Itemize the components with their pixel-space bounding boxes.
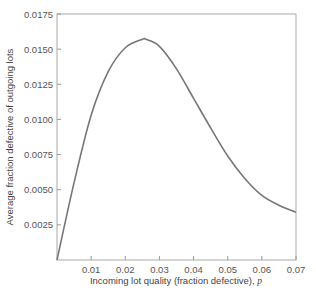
x-tick-label: 0.06 xyxy=(253,264,272,275)
plot-frame xyxy=(57,14,296,260)
y-tick-label: 0.0125 xyxy=(24,79,53,90)
x-tick-label: 0.05 xyxy=(218,264,237,275)
y-axis-label: Average fraction defective of outgoing l… xyxy=(4,48,15,225)
y-tick-label: 0.0175 xyxy=(24,9,53,20)
x-axis-label: Incoming lot quality (fraction defective… xyxy=(90,275,262,286)
x-axis-ticks: 0.010.020.030.040.050.060.07 xyxy=(82,256,305,275)
x-tick-label: 0.07 xyxy=(287,264,306,275)
y-tick-label: 0.0100 xyxy=(24,114,53,125)
y-axis-ticks: 0.00250.00500.00750.01000.01250.01500.01… xyxy=(24,9,61,231)
x-tick-label: 0.03 xyxy=(150,264,169,275)
y-tick-label: 0.0075 xyxy=(24,149,53,160)
y-tick-label: 0.0150 xyxy=(24,44,53,55)
aoq-chart: 0.00250.00500.00750.01000.01250.01500.01… xyxy=(0,0,316,298)
x-tick-label: 0.01 xyxy=(82,264,101,275)
x-tick-label: 0.02 xyxy=(116,264,135,275)
aoq-curve xyxy=(57,38,296,260)
y-tick-label: 0.0025 xyxy=(24,219,53,230)
y-tick-label: 0.0050 xyxy=(24,184,53,195)
x-tick-label: 0.04 xyxy=(184,264,203,275)
